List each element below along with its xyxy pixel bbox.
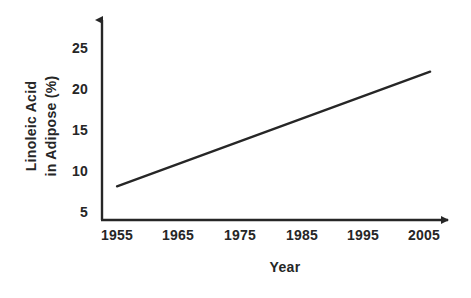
y-tick-label-5: 5 <box>48 204 88 220</box>
x-tick-label-1965: 1965 <box>148 227 208 243</box>
x-tick-label-1975: 1975 <box>210 227 270 243</box>
x-axis-title: Year <box>225 259 345 275</box>
x-tick-label-1995: 1995 <box>333 227 393 243</box>
y-axis-title-line-2: in Adipose (%) <box>43 46 59 206</box>
y-axis-title-line-1: Linoleic Acid <box>23 46 39 206</box>
x-tick-label-1985: 1985 <box>272 227 332 243</box>
chart-figure: 25 20 15 10 5 1955 1965 1975 1985 1995 2… <box>0 0 471 298</box>
x-tick-label-2005: 2005 <box>394 227 454 243</box>
x-tick-label-1955: 1955 <box>87 227 147 243</box>
data-series-line <box>117 72 430 187</box>
